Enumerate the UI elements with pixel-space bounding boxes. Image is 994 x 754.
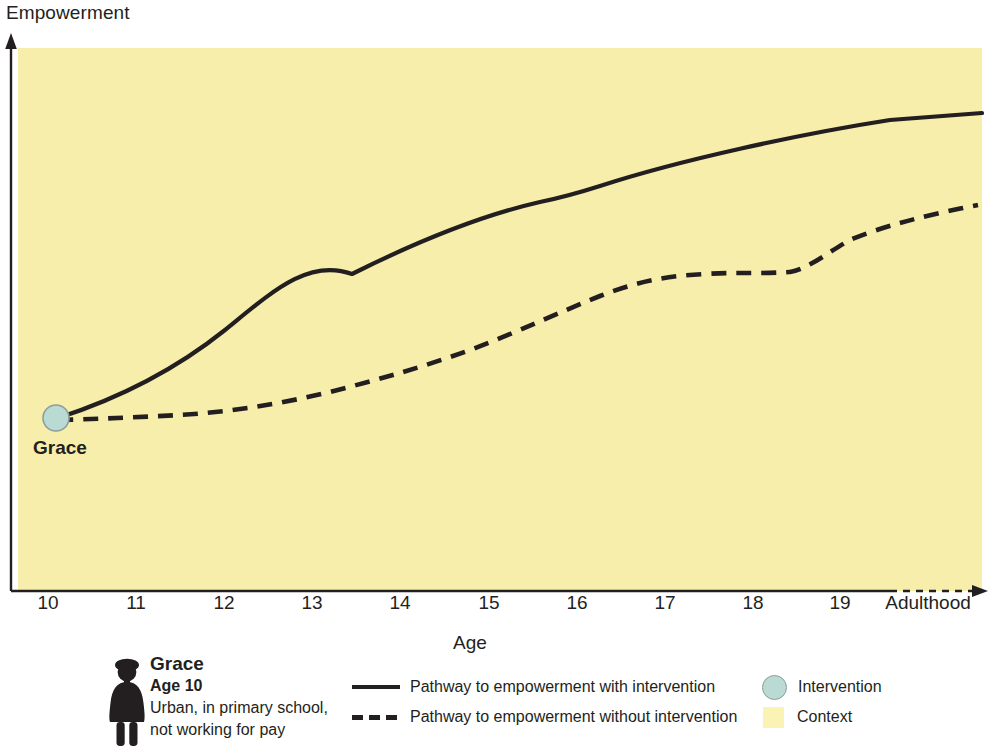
intervention-marker-grace: [43, 405, 69, 431]
intervention-circle-icon: [762, 675, 787, 700]
y-axis-arrowhead: [5, 33, 17, 49]
legend-series: Pathway to empowerment with intervention…: [352, 672, 752, 732]
legend-item-context: Context: [762, 702, 982, 732]
legend-label-without-intervention: Pathway to empowerment without intervent…: [410, 707, 737, 727]
dashed-line-swatch-icon: [352, 711, 400, 723]
x-tick-17: 17: [654, 592, 675, 614]
persona-age: Age 10: [150, 675, 350, 697]
persona-name: Grace: [150, 652, 350, 675]
persona-text-block: Grace Age 10 Urban, in primary school, n…: [150, 652, 350, 741]
empowerment-pathway-chart: Empowerment Grace 10 11 12 13 14 15 16 1…: [0, 0, 994, 754]
legend-item-without-intervention: Pathway to empowerment without intervent…: [352, 702, 752, 732]
x-tick-16: 16: [566, 592, 587, 614]
start-point-label: Grace: [33, 437, 87, 459]
context-square-icon: [763, 707, 784, 728]
legend-item-with-intervention: Pathway to empowerment with intervention: [352, 672, 752, 702]
x-axis-title: Age: [0, 632, 940, 654]
x-tick-15: 15: [478, 592, 499, 614]
legend-item-intervention: Intervention: [762, 672, 982, 702]
female-person-icon: [104, 656, 150, 748]
x-tick-adulthood: Adulthood: [885, 592, 971, 614]
persona-description-line2: not working for pay: [150, 719, 350, 741]
x-tick-19: 19: [829, 592, 850, 614]
persona-grace: Grace Age 10 Urban, in primary school, n…: [104, 652, 344, 752]
x-tick-13: 13: [301, 592, 322, 614]
x-tick-14: 14: [389, 592, 410, 614]
x-tick-11: 11: [126, 592, 146, 614]
legend-label-with-intervention: Pathway to empowerment with intervention: [410, 677, 715, 697]
persona-description-line1: Urban, in primary school,: [150, 697, 350, 719]
x-tick-10: 10: [37, 592, 58, 614]
x-tick-18: 18: [742, 592, 763, 614]
x-axis-tick-labels: 10 11 12 13 14 15 16 17 18 19 Adulthood: [0, 592, 994, 620]
solid-line-swatch-icon: [352, 681, 400, 693]
legend-label-context: Context: [797, 707, 852, 727]
legend-keys: Intervention Context: [762, 672, 982, 732]
x-tick-12: 12: [213, 592, 234, 614]
legend-label-intervention: Intervention: [798, 677, 882, 697]
